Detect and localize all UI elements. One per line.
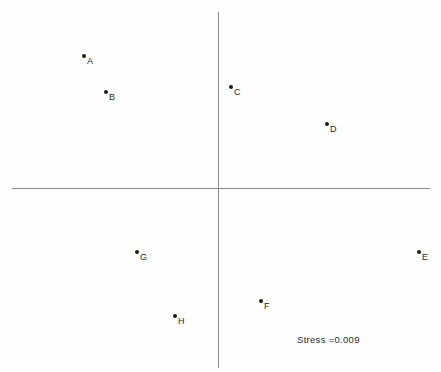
point-marker-icon (259, 299, 263, 303)
point-marker-icon (173, 314, 177, 318)
x-axis-line (12, 188, 430, 189)
point-marker-icon (417, 250, 421, 254)
point-label: F (264, 302, 270, 311)
point-marker-icon (229, 85, 233, 89)
point-marker-icon (135, 250, 139, 254)
point-label: E (422, 253, 428, 262)
point-label: D (330, 125, 337, 134)
point-marker-icon (104, 90, 108, 94)
point-marker-icon (325, 122, 329, 126)
point-label: H (178, 317, 185, 326)
point-label: C (234, 88, 241, 97)
point-label: A (87, 57, 93, 66)
scatter-plot-canvas: ABCDEFGH Stress =0.009 (0, 0, 441, 372)
point-label: B (109, 93, 115, 102)
stress-annotation: Stress =0.009 (297, 334, 360, 345)
point-label: G (140, 253, 147, 262)
y-axis-line (218, 12, 219, 368)
point-marker-icon (82, 54, 86, 58)
